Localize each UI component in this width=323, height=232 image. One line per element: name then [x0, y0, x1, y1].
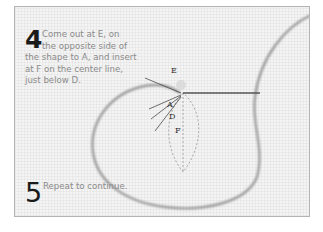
- instruction-panel: E A D F 4 Come out at E, on the opposite…: [14, 6, 310, 217]
- step-number: 4: [25, 27, 42, 53]
- step-text-line: the opposite side of: [25, 41, 155, 53]
- step-4: 4 Come out at E, on the opposite side of…: [25, 29, 155, 87]
- step-text-line: Repeat to continue.: [25, 181, 155, 193]
- step-text-line: just below D.: [25, 75, 155, 87]
- label-e: E: [171, 66, 177, 75]
- step-5: 5 Repeat to continue.: [25, 181, 155, 193]
- label-f: F: [175, 126, 181, 135]
- step-text-line: Come out at E, on: [25, 29, 155, 41]
- step-number: 5: [25, 179, 42, 207]
- label-d: D: [169, 112, 175, 121]
- step-text-line: at F on the center line,: [25, 64, 155, 76]
- label-a: A: [167, 100, 173, 109]
- step-text-line: the shape to A, and insert: [25, 52, 155, 64]
- petal-outline: [169, 93, 199, 172]
